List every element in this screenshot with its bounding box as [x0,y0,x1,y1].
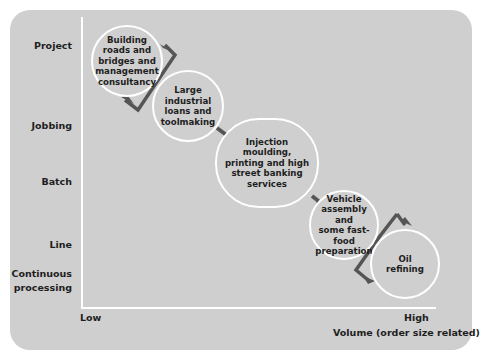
node-jobbing: Large industrial loans and toolmaking [152,70,224,142]
node-line: Vehicle assembly and some fast-food prep… [309,190,379,260]
node-project: Building roads and bridges and managemen… [91,25,163,97]
node-continuous: Oil refining [370,229,440,299]
node-batch: Injection moulding, printing and high st… [215,118,319,208]
